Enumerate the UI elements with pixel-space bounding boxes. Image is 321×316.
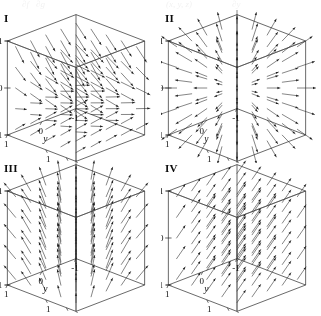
y-tick-label: -1 <box>232 263 240 273</box>
panel-ii-plot: 10-1z-101y10-1x <box>161 10 321 163</box>
panel-i: I 10-1z-101y10-1x <box>0 10 160 163</box>
y-tick-label: -1 <box>71 113 79 123</box>
z-tick-label: 1 <box>0 36 2 46</box>
y-tick-label: 1 <box>4 139 9 149</box>
x-tick-label: 0 <box>67 312 72 313</box>
z-tick-label: 0 <box>0 83 3 93</box>
z-tick-label: -1 <box>0 130 2 140</box>
panel-i-plot: 10-1z-101y10-1x <box>0 10 160 163</box>
x-tick-label: 1 <box>207 304 212 313</box>
z-tick-label: -1 <box>161 130 163 140</box>
z-tick-label: 1 <box>0 186 2 196</box>
z-tick-label: 0 <box>161 233 164 243</box>
y-tick-label: -1 <box>71 263 79 273</box>
vector-field <box>177 161 306 303</box>
x-tick-label: 1 <box>46 304 51 313</box>
panel-ii: II 10-1z-101y10-1x <box>161 10 321 163</box>
y-axis-label: y <box>203 134 209 144</box>
y-tick-label: -1 <box>232 113 240 123</box>
panel-iii-plot: 1-1z-101y10-1x <box>0 160 160 313</box>
y-tick-label: 1 <box>165 289 170 299</box>
panel-iii: III 1-1z-101y10-1x <box>0 160 160 313</box>
vector-field-figure: I 10-1z-101y10-1x II 10-1z-101y10-1x III… <box>0 0 321 316</box>
z-tick-label: 1 <box>161 36 163 46</box>
z-tick-label: -1 <box>0 280 2 290</box>
y-tick-label: 1 <box>4 289 9 299</box>
z-tick-label: 1 <box>161 186 163 196</box>
y-tick-label: 1 <box>165 139 170 149</box>
y-axis-label: y <box>42 284 48 294</box>
vector-field <box>16 23 150 152</box>
panel-iv: IV 10-1z-101y10-1x <box>161 160 321 313</box>
z-tick-label: -1 <box>161 280 163 290</box>
x-tick-label: 0 <box>228 312 233 313</box>
y-axis-label: y <box>42 134 48 144</box>
y-axis-label: y <box>203 284 209 294</box>
panel-iv-plot: 10-1z-101y10-1x <box>161 160 321 313</box>
